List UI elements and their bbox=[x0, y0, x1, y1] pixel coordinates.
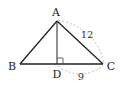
measure-label-AC: 12 bbox=[81, 30, 94, 40]
segment-AB bbox=[20, 21, 57, 64]
dimension-arc-AC bbox=[58, 20, 104, 63]
vertex-label-D: D bbox=[53, 69, 62, 80]
triangle-diagram: A B C D 12 9 bbox=[0, 0, 121, 87]
vertex-label-B: B bbox=[8, 61, 16, 72]
vertex-label-C: C bbox=[107, 61, 115, 72]
segment-AC bbox=[57, 21, 103, 64]
right-angle-mark-icon bbox=[57, 58, 63, 64]
vertex-label-A: A bbox=[52, 7, 60, 18]
measure-label-DC: 9 bbox=[78, 72, 84, 82]
